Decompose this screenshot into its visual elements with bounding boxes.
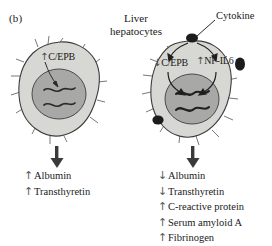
resting-output-arrow (51, 146, 64, 168)
stimulated-output-list: ↓Albumin ↓Transthyretin ↑C-reactive prot… (158, 168, 244, 246)
stimulated-nfil6-text: NF-IL6 (204, 55, 233, 66)
stimulated-nfil6-label: ↑NF-IL6 (196, 55, 234, 66)
output-label: Transthyretin (168, 186, 224, 197)
output-label: C-reactive protein (168, 201, 244, 212)
trend-arrow-icon: ↑ (158, 199, 166, 215)
output-label: Transthyretin (34, 186, 90, 197)
cytokine-dot-left (152, 115, 163, 124)
resting-output-list: ↑Albumin ↑Transthyretin (24, 168, 90, 199)
list-item: ↑Transthyretin (24, 184, 90, 200)
trend-arrow-icon: ↑ (24, 184, 32, 200)
output-label: Serum amyloid A (168, 217, 242, 228)
list-item: ↑C-reactive protein (158, 199, 244, 215)
resting-cepb-arrow-glyph: ↑ (40, 51, 48, 62)
trend-arrow-icon: ↓ (158, 184, 166, 200)
list-item: ↓Transthyretin (158, 184, 244, 200)
list-item: ↑Fibrinogen (158, 230, 244, 246)
output-label: Albumin (34, 170, 71, 181)
list-item: ↑Serum amyloid A (158, 215, 244, 231)
resting-cepb-label: ↑C/EPB (40, 51, 75, 62)
stimulated-output-arrow (187, 146, 200, 168)
figure-panel-b: (b) Liver hepatocytes Cytokine (0, 0, 272, 246)
trend-arrow-icon: ↑ (158, 230, 166, 246)
stimulated-cell-nucleus (165, 74, 219, 124)
stimulated-cepb-label: ↓C/EPB (153, 57, 188, 68)
output-label: Albumin (168, 170, 205, 181)
resting-cell-nucleus (32, 69, 86, 119)
trend-arrow-icon: ↓ (158, 168, 166, 184)
cytokine-dot-top (186, 33, 198, 42)
stimulated-cepb-arrow-glyph: ↓ (153, 57, 161, 68)
trend-arrow-icon: ↑ (24, 168, 32, 184)
list-item: ↑Albumin (24, 168, 90, 184)
trend-arrow-icon: ↑ (158, 215, 166, 231)
stimulated-cell-group (142, 20, 245, 145)
cytokine-dot-right (235, 57, 245, 70)
stimulated-nfil6-arrow-glyph: ↑ (196, 55, 204, 66)
cytokine-leader-line (197, 20, 215, 36)
resting-cepb-text: C/EPB (48, 51, 75, 62)
stimulated-cepb-text: C/EPB (161, 57, 188, 68)
output-label: Fibrinogen (168, 232, 214, 243)
list-item: ↓Albumin (158, 168, 244, 184)
